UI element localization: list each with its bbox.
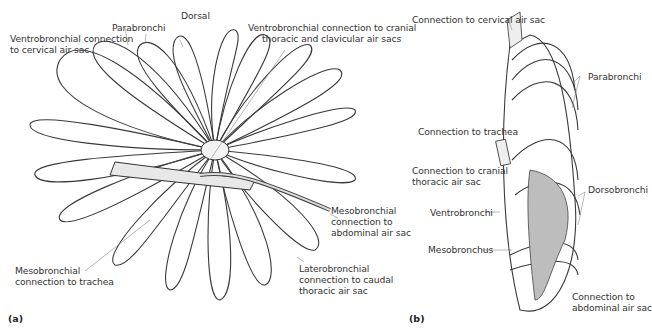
label-meso-trachea-line1: Mesobronchial <box>15 265 80 276</box>
label-ventro-cervical-line1: Ventrobronchial connection <box>10 33 133 44</box>
label-dorsobronchi: Dorsobronchi <box>588 184 648 195</box>
label-parabronchi-b: Parabronchi <box>588 71 641 82</box>
label-cranial-line1: Connection to cranial <box>412 165 508 176</box>
label-meso-abdominal-line2: connection to <box>331 216 392 227</box>
label-ventro-cranial-line1: Ventrobronchial connection to cranial <box>248 22 416 33</box>
label-latero-caudal-line1: Laterobronchial <box>299 263 369 274</box>
label-ventrobronchi: Ventrobronchi <box>430 207 493 218</box>
label-abdominal-line1: Connection to <box>572 291 635 302</box>
label-meso-abdominal-line1: Mesobronchial <box>331 205 396 216</box>
panel-a-drawing <box>30 30 355 300</box>
label-cranial-line2: thoracic air sac <box>412 176 481 187</box>
label-trachea-connection: Connection to trachea <box>418 126 518 137</box>
label-cervical-connection: Connection to cervical air sac <box>412 14 545 25</box>
label-mesobronchus: Mesobronchus <box>428 244 493 255</box>
label-meso-abdominal-line3: abdominal air sac <box>331 227 411 238</box>
panel-a-tag: (a) <box>8 313 23 324</box>
label-latero-caudal-line3: thoracic air sac <box>299 285 368 296</box>
label-dorsal: Dorsal <box>181 10 210 21</box>
panel-b-drawing <box>496 12 580 311</box>
label-latero-caudal-line2: connection to caudal <box>299 274 393 285</box>
panel-b-tag: (b) <box>409 313 424 324</box>
label-abdominal-line2: abdominal air sac <box>572 302 652 313</box>
label-ventro-cranial-line2: thoracic and clavicular air sacs <box>262 33 401 44</box>
label-parabronchi-a: Parabronchi <box>112 22 165 33</box>
label-ventro-cervical-line2: to cervical air sac <box>10 44 89 55</box>
label-meso-trachea-line2: connection to trachea <box>15 276 114 287</box>
